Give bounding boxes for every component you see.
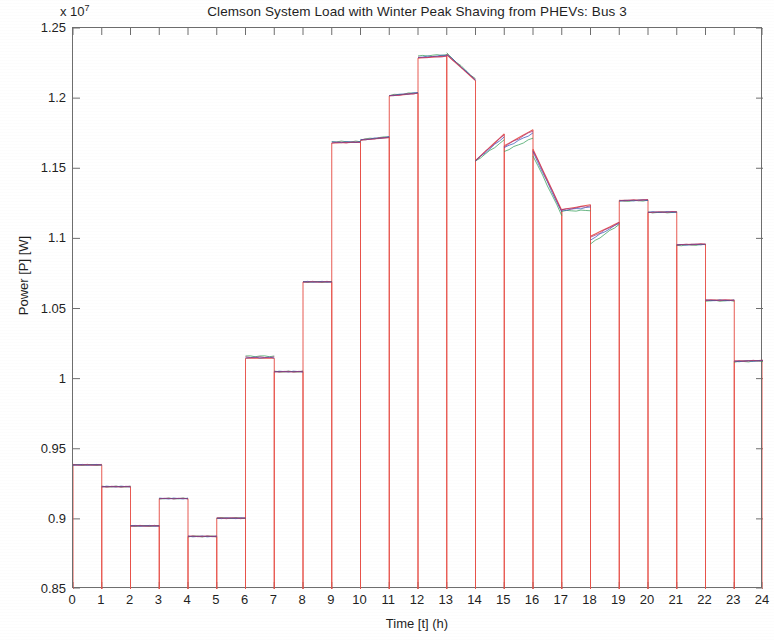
x-tick-label: 7	[270, 592, 277, 607]
chart-figure: Clemson System Load with Winter Peak Sha…	[0, 0, 774, 640]
x-tick-label: 15	[496, 592, 510, 607]
x-tick-label: 9	[327, 592, 334, 607]
x-tick-label: 3	[155, 592, 162, 607]
x-tick-label: 1	[97, 592, 104, 607]
x-tick-label: 19	[611, 592, 625, 607]
x-tick-label: 8	[298, 592, 305, 607]
x-tick-label: 17	[554, 592, 568, 607]
x-tick-label: 16	[525, 592, 539, 607]
x-tick-label: 22	[697, 592, 711, 607]
x-tick-label: 14	[467, 592, 481, 607]
step-verticals-layer	[73, 55, 763, 589]
x-tick-label: 10	[352, 592, 366, 607]
x-tick-label: 5	[212, 592, 219, 607]
x-tick-label: 6	[241, 592, 248, 607]
x-tick-label: 12	[410, 592, 424, 607]
x-tick-label: 2	[126, 592, 133, 607]
x-tick-label: 21	[669, 592, 683, 607]
plot-canvas	[73, 28, 763, 589]
x-tick-label: 23	[726, 592, 740, 607]
x-tick-label: 13	[439, 592, 453, 607]
x-tick-label: 0	[68, 592, 75, 607]
plot-area	[72, 27, 762, 588]
x-tick-label: 20	[640, 592, 654, 607]
x-tick-label: 4	[183, 592, 190, 607]
x-tick-label: 18	[582, 592, 596, 607]
x-tick-label: 11	[382, 592, 396, 607]
x-tick-label: 24	[755, 592, 769, 607]
